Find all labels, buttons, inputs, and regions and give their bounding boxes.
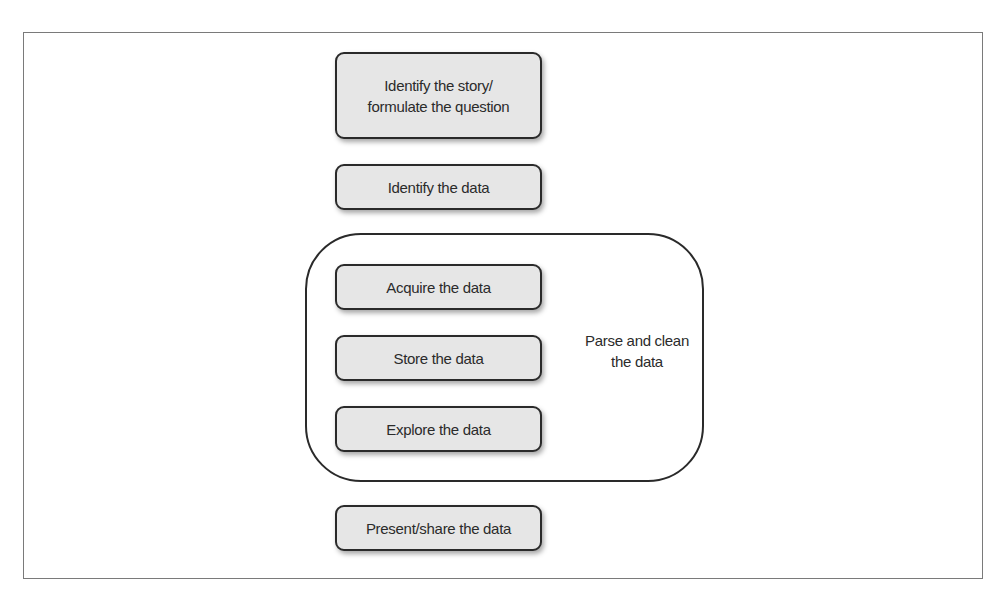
step-label: Present/share the data	[366, 518, 511, 539]
parse-clean-label: Parse and clean the data	[572, 330, 702, 372]
group-label-line: Parse and clean	[572, 330, 702, 351]
step-label: Acquire the data	[386, 277, 490, 298]
step-identify-data: Identify the data	[335, 164, 542, 210]
step-label: Explore the data	[386, 419, 490, 440]
step-identify-story: Identify the story/ formulate the questi…	[335, 52, 542, 139]
step-store-data: Store the data	[335, 335, 542, 381]
group-label-line: the data	[572, 351, 702, 372]
step-acquire-data: Acquire the data	[335, 264, 542, 310]
step-label: Identify the data	[388, 177, 490, 198]
step-label-line: formulate the question	[368, 96, 510, 117]
step-identify-story-label: Identify the story/ formulate the questi…	[368, 75, 510, 117]
step-present-data: Present/share the data	[335, 505, 542, 551]
step-label-line: Identify the story/	[368, 75, 510, 96]
step-explore-data: Explore the data	[335, 406, 542, 452]
step-label: Store the data	[393, 348, 483, 369]
